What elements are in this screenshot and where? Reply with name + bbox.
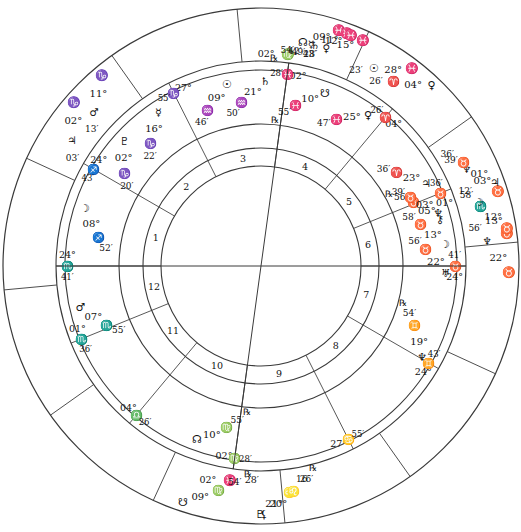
natal-chart-svg: 12345678910111224°♏41′24°♐43′27°♑55′02°♓…	[0, 0, 521, 532]
planet-degree-moon-sag: 08°	[83, 218, 101, 229]
planet-sign-glyph-venus: ♓	[330, 113, 343, 126]
zodiac-division-1	[112, 55, 143, 98]
planet-minute-outer-venus: 26′	[369, 76, 383, 86]
cusp-minute-4: 28′	[270, 68, 283, 78]
planet-minute-moon-sag: 52′	[99, 243, 113, 253]
planet-sign-glyph-sun: ♒	[201, 104, 214, 117]
astrology-chart-wheel: 12345678910111224°♏41′24°♐43′27°♑55′02°♓…	[0, 0, 521, 532]
planet-degree-mercury: 16°	[145, 123, 163, 134]
cusp-minute-7: 41′	[448, 250, 461, 260]
planet-degree-outer-pisces-4: 15°	[337, 39, 355, 50]
planet-glyph-sun: ☉	[222, 78, 232, 91]
planet-minute-mars: 55′	[112, 325, 126, 335]
planet-degree-outer-mercury: 12°	[484, 211, 502, 222]
cusp-minute-3: 55′	[158, 93, 171, 103]
planet-degree-jupiter: 23°	[403, 172, 421, 183]
planet-glyph-outer-uranus: ♉	[502, 266, 516, 279]
planet-retrograde-south-node: ℞	[271, 115, 279, 125]
planet-sign-glyph-outer-capricorn-1: ♃	[67, 134, 76, 146]
cusp-minute-9: 55′	[352, 429, 365, 439]
planet-degree-outer-venus: 04°	[404, 79, 422, 90]
planet-sign-glyph-moon: ♉	[414, 218, 427, 231]
planet-minute-pluto: 20′	[120, 181, 134, 191]
house-ring-div-3	[208, 161, 216, 177]
house-number-6: 6	[365, 239, 371, 250]
planet-degree-neptune-tau: 03°	[416, 199, 434, 210]
planet-glyph-jupiter: ♃	[421, 177, 431, 190]
planet-degree-outer-jupiter: 01°	[470, 168, 488, 179]
planet-minute-uranus: 56′	[408, 236, 422, 246]
planet-retrograde-outer-pluto: ℞	[309, 463, 317, 473]
planet-degree-pluto: 02°	[115, 152, 133, 163]
cusp-minute-6: 36′	[430, 178, 443, 188]
house-number-9: 9	[276, 368, 282, 379]
cusp-minute-2: 43′	[82, 173, 95, 183]
cusp-minute-8: 43′	[428, 349, 441, 359]
cusp-minute-10: 28′	[239, 454, 252, 464]
planet-minute-moon: 58′	[402, 212, 416, 222]
planet-glyph-neptune-tau: ♆	[433, 207, 443, 220]
planet-glyph-pluto: ♇	[119, 135, 129, 148]
cusp-minute-11: 26′	[139, 417, 152, 427]
planet-glyph-neptune: ♆	[417, 351, 427, 364]
cusp-minute-5: 26′	[371, 105, 384, 115]
planet-glyph-outer-south-node: ☋	[178, 496, 188, 509]
house-number-3: 3	[240, 153, 246, 164]
planet-glyph-north-node: ☊	[192, 433, 202, 446]
zodiac-division-4	[428, 117, 471, 148]
house-ring-div-2	[159, 207, 175, 216]
planet-degree-outer-uranus: 22°	[489, 252, 507, 263]
planet-glyph-saturn: ♄	[260, 75, 270, 88]
planet-glyph-outer-capricorn-2: ♑	[95, 69, 109, 82]
planet-minute-outer-jupiter: 36′	[441, 149, 455, 159]
zodiac-division-9	[153, 452, 175, 500]
planet-sign-glyph-outer-uranus: ♆	[482, 235, 491, 247]
planet-glyph-outer-mercury: ♉	[500, 222, 514, 235]
planet-retrograde-neptune: ℞	[399, 298, 407, 308]
house-number-2: 2	[183, 181, 189, 192]
house-number-10: 10	[211, 360, 223, 371]
planet-minute-outer-mercury: 12′	[459, 186, 473, 196]
planet-degree-moon: 13°	[424, 229, 442, 240]
planet-minute-venus: 47′	[317, 118, 331, 128]
cusp-minute-12: 36′	[79, 344, 92, 354]
planet-minute-south-node: 55′	[278, 107, 292, 117]
planet-sign-glyph-outer-lilith: ♌	[287, 485, 300, 498]
house-ring-div-5	[325, 175, 337, 189]
planet-degree-outer-capricorn-1: 02°	[65, 115, 83, 126]
house-number-11: 11	[167, 325, 179, 336]
house-number-12: 12	[148, 281, 160, 292]
planet-sign-glyph-outer-pisces-5: ☉	[369, 62, 379, 74]
planet-minute-sun: 46′	[195, 117, 209, 127]
planet-degree-south-node: 10°	[301, 93, 319, 104]
planet-glyph-outer-pisces-5: ♓	[405, 62, 419, 75]
planet-degree-north-node: 10°	[203, 429, 221, 440]
cusp-sign-glyph-6: ♉	[434, 187, 447, 200]
cusp-degree-1: 24°	[59, 249, 76, 260]
planet-degree-outer-pisces-5: 28°	[384, 64, 402, 75]
house-ring-div-8	[348, 316, 364, 325]
planet-minute-outer-pisces-4: 43′	[303, 49, 317, 59]
house-ring-div-6	[354, 222, 371, 229]
planet-glyph-outer-capricorn-1: ♑	[67, 96, 81, 109]
house-number-5: 5	[346, 196, 352, 207]
planet-degree-venus: 25°	[343, 111, 361, 122]
planet-glyph-venus: ♀	[364, 109, 372, 122]
planet-glyph-outer-pisces-4: ♓	[356, 34, 370, 47]
planet-minute-saturn: 50′	[226, 108, 240, 118]
planet-sign-glyph-pluto: ♑	[118, 167, 131, 180]
planet-sign-glyph-outer-pisces-4: ♀	[323, 42, 331, 54]
zodiac-division-11	[4, 285, 57, 290]
planet-glyph-uranus: ♅	[441, 267, 451, 280]
planet-degree-sun: 09°	[208, 92, 226, 103]
planet-minute-jupiter: 36′	[377, 164, 391, 174]
planet-minute-neptune: 54′	[403, 308, 417, 318]
planet-degree-outer-lilith: 20°	[269, 498, 287, 509]
planet-sign-glyph-neptune: ♊	[408, 319, 421, 332]
zodiac-division-2	[237, 9, 242, 62]
house-ring-div-12	[152, 304, 169, 311]
planet-minute-outer-south-node: 54′	[228, 477, 242, 487]
planet-sign-glyph-mercury: ♑	[144, 137, 157, 150]
zodiac-division-10	[50, 385, 93, 416]
cusp-minute-1: 41′	[61, 272, 74, 282]
